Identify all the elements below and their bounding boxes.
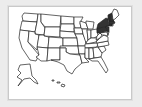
state-nd[interactable] bbox=[61, 16, 74, 24]
state-ks[interactable] bbox=[63, 38, 78, 46]
state-mt[interactable] bbox=[41, 14, 61, 27]
state-wy[interactable] bbox=[44, 27, 60, 37]
state-hi[interactable] bbox=[52, 80, 65, 87]
state-wa[interactable] bbox=[22, 13, 38, 22]
us-map bbox=[0, 0, 142, 107]
state-ma[interactable] bbox=[109, 21, 115, 24]
state-ms[interactable] bbox=[85, 48, 89, 59]
state-ak[interactable] bbox=[17, 64, 38, 86]
state-ut[interactable] bbox=[37, 35, 49, 48]
state-me[interactable] bbox=[112, 9, 119, 20]
state-fl[interactable] bbox=[89, 57, 108, 73]
state-nm[interactable] bbox=[47, 48, 60, 61]
